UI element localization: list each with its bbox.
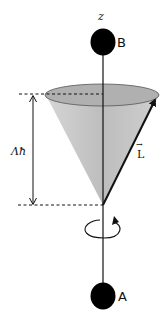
precession-diagram <box>0 0 166 324</box>
z-axis-label: z <box>98 11 104 22</box>
cone-top-ellipse <box>45 84 159 106</box>
vector-label: L <box>137 149 144 160</box>
mass-a <box>91 283 116 310</box>
height-double-arrow <box>30 96 37 205</box>
height-label: Λħ <box>11 146 26 157</box>
mass-b <box>91 29 116 56</box>
mass-b-label: B <box>117 36 126 49</box>
mass-a-label: A <box>118 290 127 303</box>
